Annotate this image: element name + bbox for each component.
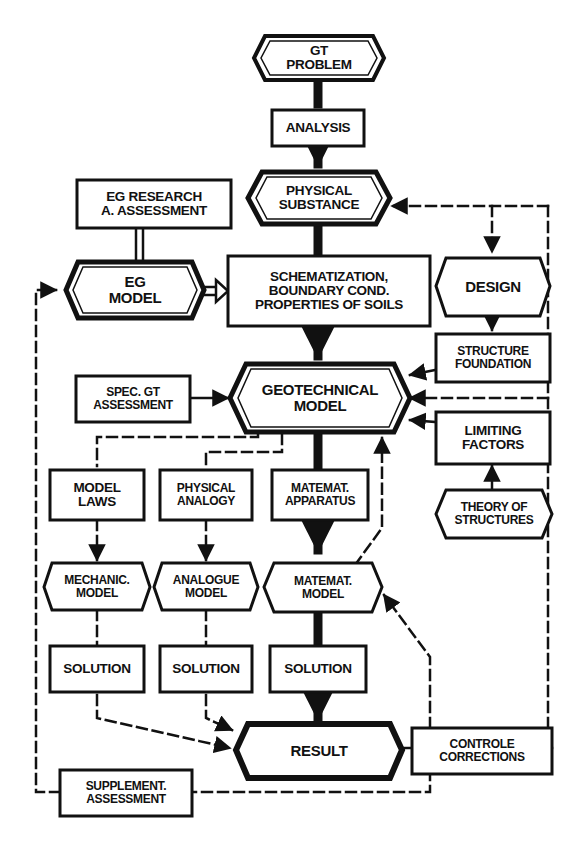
node-eg-research: EG RESEARCH A. ASSESSMENT bbox=[77, 180, 231, 228]
node-supplement-assessment: SUPPLEMENT. ASSESSMENT bbox=[60, 770, 192, 816]
node-mechanic-model: MECHANIC. MODEL bbox=[44, 563, 150, 610]
node-schematization: SCHEMATIZATION, BOUNDARY COND. PROPERTIE… bbox=[228, 256, 430, 326]
node-result: RESULT bbox=[236, 724, 402, 778]
node-matemat-model: MATEMAT. MODEL bbox=[264, 563, 382, 612]
node-geotechnical-model: GEOTECHNICAL MODEL bbox=[230, 364, 410, 432]
node-model-laws: MODEL LAWS bbox=[50, 470, 144, 520]
node-spec-gt-assessment: SPEC. GT ASSESSMENT bbox=[76, 376, 190, 422]
node-analysis: ANALYSIS bbox=[272, 110, 364, 146]
node-controle-corrections: CONTROLE CORRECTIONS bbox=[412, 728, 552, 774]
node-matemat-apparatus: MATEMAT. APPARATUS bbox=[272, 470, 368, 520]
node-solution-1: SOLUTION bbox=[50, 646, 144, 692]
node-physical-analogy: PHYSICAL ANALOGY bbox=[160, 470, 252, 520]
node-structure-foundation: STRUCTURE FOUNDATION bbox=[436, 334, 550, 382]
node-limiting-factors: LIMITING FACTORS bbox=[436, 412, 550, 464]
node-eg-model: EG MODEL bbox=[66, 262, 204, 318]
node-physical-substance: PHYSICAL SUBSTANCE bbox=[248, 172, 390, 224]
node-analogue-model: ANALOGUE MODEL bbox=[154, 563, 258, 610]
node-solution-2: SOLUTION bbox=[160, 646, 252, 692]
node-solution-3: SOLUTION bbox=[270, 646, 366, 692]
node-design: DESIGN bbox=[436, 258, 550, 316]
node-theory-of-structures: THEORY OF STRUCTURES bbox=[436, 490, 552, 538]
node-gt-problem: GT PROBLEM bbox=[254, 36, 384, 80]
